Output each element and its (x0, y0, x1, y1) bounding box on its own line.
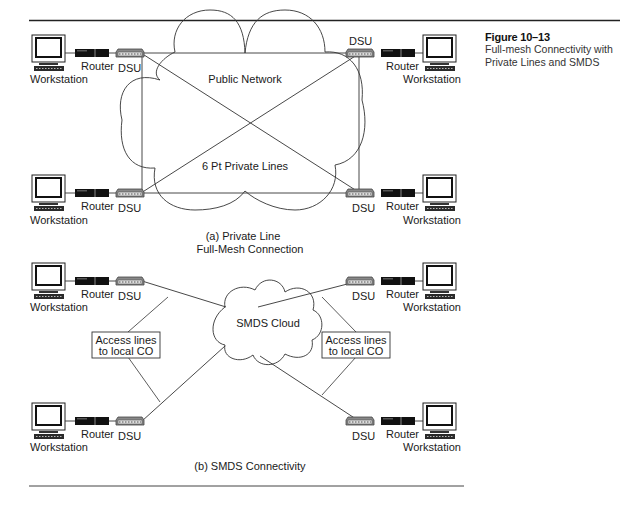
figure-caption: Figure 10–13 Full-mesh Connectivity with… (485, 31, 620, 69)
node-a-bottom-left: Router DSU Workstation (30, 175, 144, 226)
node-a-top-right: DSU Router Workstation (346, 35, 461, 85)
public-network-label: Public Network (208, 73, 282, 85)
dsu-icon (346, 277, 374, 285)
router-label: Router (81, 428, 114, 440)
part-b-caption: (b) SMDS Connectivity (194, 460, 306, 472)
dsu-icon (116, 277, 144, 285)
node-b-bottom-right: DSU Router Workstation (346, 403, 461, 453)
figure-number: Figure 10–13 (485, 31, 620, 43)
dsu-label: DSU (352, 202, 375, 214)
node-b-top-left: Router DSU Workstation (30, 263, 144, 313)
figure-title-line1: Full-mesh Connectivity with (485, 43, 620, 56)
dsu-label: DSU (352, 430, 375, 442)
access-lines-box-right: Access lines to local CO (322, 332, 390, 358)
workstation-icon (32, 403, 65, 439)
network-diagram: Public Network 6 Pt Private Lines Router… (0, 0, 620, 507)
workstation-icon (423, 35, 456, 71)
router-label: Router (386, 428, 419, 440)
workstation-icon (32, 175, 65, 211)
part-b-smds: SMDS Cloud Access lines to local CO Acce… (30, 263, 461, 472)
workstation-icon (32, 35, 65, 71)
part-a-private-line: Public Network 6 Pt Private Lines Router… (30, 10, 461, 255)
access-lines-box-left: Access lines to local CO (92, 332, 160, 358)
workstation-icon (423, 175, 456, 211)
router-icon (381, 49, 415, 57)
router-label: Router (386, 288, 419, 300)
dsu-label: DSU (118, 430, 141, 442)
node-b-top-right: DSU Router Workstation (346, 263, 461, 313)
router-label: Router (81, 288, 114, 300)
workstation-icon (423, 263, 456, 299)
router-icon (75, 189, 109, 197)
workstation-label: Workstation (30, 301, 88, 313)
private-lines-label: 6 Pt Private Lines (202, 160, 289, 172)
public-network-cloud (120, 10, 365, 210)
workstation-label: Workstation (403, 301, 461, 313)
workstation-label: Workstation (403, 441, 461, 453)
dsu-label: DSU (118, 290, 141, 302)
svg-text:to local CO: to local CO (99, 345, 154, 357)
workstation-label: Workstation (30, 73, 88, 85)
router-label: Router (386, 200, 419, 212)
svg-text:to local CO: to local CO (329, 345, 384, 357)
workstation-icon (32, 263, 65, 299)
router-icon (75, 49, 109, 57)
router-label: Router (386, 60, 419, 72)
router-icon (381, 417, 415, 425)
smds-cloud-label: SMDS Cloud (236, 317, 300, 329)
dsu-icon (346, 189, 374, 197)
workstation-label: Workstation (30, 441, 88, 453)
dsu-label: DSU (352, 290, 375, 302)
dsu-label: DSU (349, 35, 372, 47)
figure-title: Full-mesh Connectivity with Private Line… (485, 43, 620, 69)
dsu-icon (346, 49, 374, 57)
workstation-label: Workstation (30, 214, 88, 226)
dsu-label: DSU (118, 62, 141, 74)
node-a-top-left: Router DSU Workstation (30, 35, 144, 85)
workstation-label: Workstation (403, 73, 461, 85)
dsu-icon (346, 417, 374, 425)
router-icon (381, 277, 415, 285)
dsu-icon (116, 49, 144, 57)
dsu-icon (116, 417, 144, 425)
part-a-caption-line1: (a) Private Line (206, 230, 281, 242)
node-a-bottom-right: DSU Router Workstation (346, 175, 461, 226)
node-b-bottom-left: Router DSU Workstation (30, 403, 144, 453)
router-icon (381, 189, 415, 197)
workstation-icon (423, 403, 456, 439)
workstation-label: Workstation (403, 214, 461, 226)
part-a-caption-line2: Full-Mesh Connection (197, 243, 304, 255)
router-icon (75, 417, 109, 425)
dsu-label: DSU (118, 202, 141, 214)
figure-title-line2: Private Lines and SMDS (485, 56, 620, 69)
dsu-icon (116, 189, 144, 197)
router-icon (75, 277, 109, 285)
router-label: Router (81, 60, 114, 72)
router-label: Router (81, 200, 114, 212)
